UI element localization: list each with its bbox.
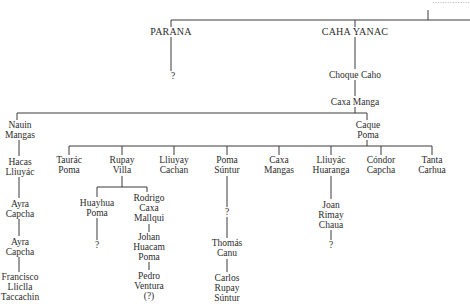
node-lliuyay-cachan: LliuyayCachan <box>158 155 190 175</box>
node-pedro-ventura: PedroVentura(?) <box>133 271 165 301</box>
genealogy-tree: ............... <box>0 0 470 307</box>
node-francisco-lliclla-taccachin: FranciscoLlicllaTaccachin <box>0 272 40 302</box>
node-joan-rimay-chaua: JoanRimayChaua <box>317 200 344 230</box>
node-taurac-poma: TaurácPoma <box>55 155 83 175</box>
node-johan-huacam-poma: JohanHuacamPoma <box>132 232 166 262</box>
node-rupay-villa: RupayVilla <box>109 155 136 175</box>
node-ayra-capcha-2: AyraCapcha <box>5 237 36 257</box>
node-joan-unknown-child: ? <box>328 240 334 250</box>
node-caque-poma: CaquePoma <box>355 120 381 140</box>
node-nauin-mangas: NauinMangas <box>4 120 36 140</box>
tree-connector-lines <box>0 0 470 307</box>
node-carlos-rupay-suntur: CarlosRupaySúntur <box>213 273 240 303</box>
node-poma-suntur-unknown-child: ? <box>224 207 230 217</box>
node-parana: PARANA <box>149 27 192 37</box>
node-lliuyac-huaranga: LliuyácHuaranga <box>312 155 351 175</box>
node-tanta-carhua: TantaCarhua <box>417 155 446 175</box>
node-huayhua-unknown-child: ? <box>94 240 100 250</box>
node-caxa-manga: Caxa Manga <box>330 97 380 107</box>
node-poma-suntur: PomaSúntur <box>213 155 240 175</box>
node-huayhua-poma: HuayhuaPoma <box>79 198 115 218</box>
node-caxa-mangas: CaxaMangas <box>263 155 295 175</box>
node-choque-caho: Choque Caho <box>328 70 382 80</box>
node-thomas-canu: ThomásCanu <box>211 238 244 258</box>
node-caha-yanac: CAHA YANAC <box>321 27 389 37</box>
node-parana-unknown-child: ? <box>170 71 176 81</box>
node-hacas-lliuyac: HacasLliuyác <box>4 157 35 177</box>
node-ayra-capcha-1: AyraCapcha <box>5 199 36 219</box>
node-condor-capcha: CóndorCapcha <box>366 155 397 175</box>
node-rodrigo-caxa-mallqui: RodrigoCaxaMallqui <box>132 193 165 223</box>
